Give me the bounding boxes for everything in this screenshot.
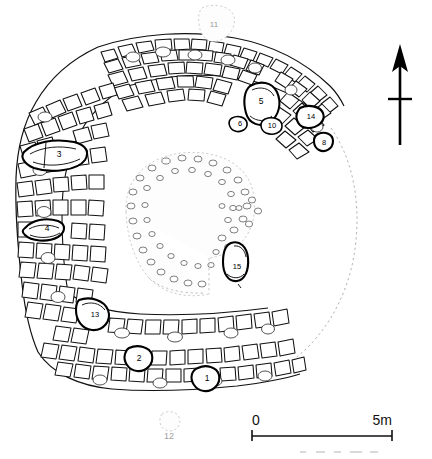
feature-12[interactable]: 12 bbox=[160, 412, 180, 442]
scale-bar: 0 5m bbox=[252, 412, 392, 441]
feature-5-label: 5 bbox=[259, 96, 264, 106]
cropped-caption-traces bbox=[300, 451, 378, 453]
feature-11-label: 11 bbox=[210, 20, 219, 29]
feature-13-label: 13 bbox=[91, 310, 99, 319]
feature-3[interactable]: 3 bbox=[22, 140, 87, 170]
feature-14-label: 14 bbox=[307, 112, 315, 121]
feature-6-label: 6 bbox=[238, 119, 242, 128]
north-arrow bbox=[388, 44, 412, 145]
feature-14[interactable]: 14 bbox=[296, 106, 323, 128]
feature-6[interactable]: 6 bbox=[229, 117, 247, 132]
scale-end-label: 5m bbox=[373, 412, 392, 428]
projected-wall-arc bbox=[261, 128, 357, 378]
feature-13[interactable]: 13 bbox=[76, 298, 109, 330]
feature-8-label: 8 bbox=[322, 138, 326, 147]
feature-10[interactable]: 10 bbox=[261, 118, 282, 134]
feature-1-label: 1 bbox=[205, 373, 210, 383]
feature-1[interactable]: 1 bbox=[192, 366, 220, 391]
feature-12-label: 12 bbox=[164, 431, 174, 441]
site-plan-figure: 3 4 5 6 bbox=[0, 0, 432, 459]
plan-canvas: 3 4 5 6 bbox=[0, 0, 432, 459]
feature-10-label: 10 bbox=[268, 121, 276, 130]
feature-2-label: 2 bbox=[137, 353, 142, 363]
feature-15-label: 15 bbox=[233, 262, 241, 271]
feature-11[interactable]: 11 bbox=[199, 5, 235, 41]
feature-2[interactable]: 2 bbox=[125, 346, 153, 371]
feature-8[interactable]: 8 bbox=[314, 133, 333, 151]
feature-15[interactable]: 15 bbox=[223, 242, 248, 288]
scale-start-label: 0 bbox=[252, 412, 260, 428]
feature-4-label: 4 bbox=[45, 223, 50, 233]
feature-3-label: 3 bbox=[57, 149, 62, 159]
